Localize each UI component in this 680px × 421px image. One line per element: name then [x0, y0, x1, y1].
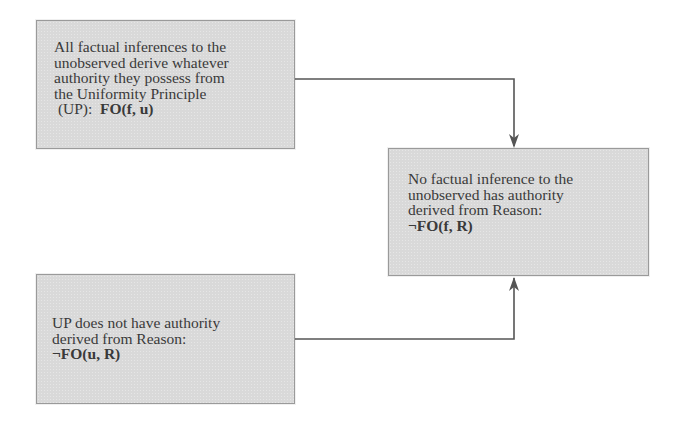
- premise-1-line-4: the Uniformity Principle: [54, 85, 206, 102]
- conclusion-formula: ¬FO(f, R): [408, 217, 473, 234]
- premise-1-formula: FO(f, u): [100, 100, 153, 117]
- premise-1-line-2: unobserved derive whatever: [54, 54, 229, 71]
- conclusion-line-2: unobserved has authority: [408, 186, 564, 203]
- edge-premise1-to-conclusion: [295, 79, 514, 146]
- premise-2-line-1: UP does not have authority: [52, 314, 220, 331]
- conclusion-line-3: derived from Reason:: [408, 201, 542, 218]
- premise-1-line-5-prefix: (UP):: [54, 100, 100, 117]
- conclusion-box: No factual inference to the unobserved h…: [388, 148, 649, 276]
- conclusion-line-1: No factual inference to the: [408, 170, 573, 187]
- premise-2-text: UP does not have authority derived from …: [52, 315, 220, 362]
- premise-1-box: All factual inferences to the unobserved…: [36, 20, 295, 149]
- premise-2-line-2: derived from Reason:: [52, 330, 186, 347]
- premise-2-box: UP does not have authority derived from …: [36, 274, 295, 404]
- premise-2-formula: ¬FO(u, R): [52, 345, 120, 362]
- premise-1-line-1: All factual inferences to the: [54, 38, 226, 55]
- conclusion-text: No factual inference to the unobserved h…: [408, 171, 573, 233]
- edge-premise2-to-conclusion: [295, 278, 514, 339]
- premise-1-text: All factual inferences to the unobserved…: [54, 39, 229, 117]
- premise-1-line-3: authority they possess from: [54, 69, 225, 86]
